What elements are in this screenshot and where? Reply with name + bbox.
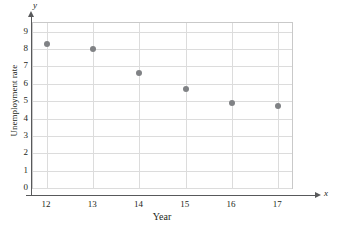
x-axis-tick-label: 14	[126, 200, 150, 209]
x-axis-tick-label: 15	[173, 200, 197, 209]
y-axis-arrow-icon	[28, 11, 34, 17]
y-axis-line	[31, 16, 32, 196]
data-point	[275, 103, 281, 109]
data-point	[44, 41, 50, 47]
y-axis-symbol: y	[33, 1, 37, 10]
x-axis-tick-label: 16	[219, 200, 243, 209]
scatter-plot-figure: y x 0123456789 121314151617 Unemployment…	[0, 0, 337, 225]
y-axis-tick-label: 0	[16, 183, 28, 192]
gridline-horizontal	[33, 101, 292, 102]
gridline-horizontal	[33, 119, 292, 120]
gridline-horizontal	[33, 32, 292, 33]
y-axis-tick-label: 1	[16, 165, 28, 174]
data-point	[90, 46, 96, 52]
x-axis-tick-label: 17	[265, 200, 289, 209]
x-axis-arrow-icon	[315, 192, 321, 198]
y-axis-tick-label: 9	[16, 26, 28, 35]
gridline-horizontal	[33, 84, 292, 85]
x-axis-tick-label: 13	[80, 200, 104, 209]
y-axis-title: Unemployment rate	[10, 41, 19, 161]
x-axis-line	[26, 195, 316, 196]
gridline-horizontal	[33, 136, 292, 137]
data-point	[183, 86, 189, 92]
gridline-vertical	[139, 23, 140, 188]
data-point	[136, 70, 142, 76]
gridline-horizontal	[33, 188, 292, 189]
gridline-horizontal	[33, 66, 292, 67]
gridline-horizontal	[33, 153, 292, 154]
gridline-vertical	[186, 23, 187, 188]
x-axis-title: Year	[92, 212, 232, 222]
plot-area	[32, 22, 293, 189]
x-axis-tick-label: 12	[34, 200, 58, 209]
data-point	[229, 100, 235, 106]
x-axis-symbol: x	[324, 189, 328, 198]
gridline-horizontal	[33, 171, 292, 172]
gridline-vertical	[47, 23, 48, 188]
gridline-horizontal	[33, 49, 292, 50]
